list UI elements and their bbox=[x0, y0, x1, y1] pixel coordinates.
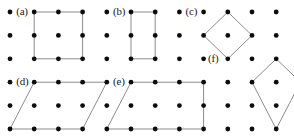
lattice-dot bbox=[274, 80, 279, 85]
lattice-dot bbox=[250, 10, 255, 15]
lattice-dot bbox=[274, 127, 279, 132]
lattice-dot bbox=[153, 103, 158, 108]
lattice-dot bbox=[225, 33, 230, 38]
lattice-dot bbox=[80, 33, 85, 38]
lattice-dot bbox=[201, 127, 206, 132]
lattice-dot bbox=[201, 80, 206, 85]
shape-label-b: (b) bbox=[113, 6, 125, 17]
lattice-dot bbox=[201, 10, 206, 15]
lattice-dot bbox=[32, 33, 37, 38]
lattice-dot bbox=[225, 103, 230, 108]
lattice-dot bbox=[32, 10, 37, 15]
lattice-dot bbox=[104, 103, 109, 108]
lattice-dot bbox=[32, 127, 37, 132]
lattice-dot bbox=[56, 56, 61, 61]
rectangle-shape-b bbox=[131, 12, 155, 59]
shape-label-c: (c) bbox=[186, 6, 198, 17]
lattice-dot bbox=[153, 10, 158, 15]
lattice-dot bbox=[104, 127, 109, 132]
shape-label-a: (a) bbox=[16, 6, 28, 17]
lattice-dot bbox=[225, 80, 230, 85]
lattice-dot bbox=[8, 127, 13, 132]
lattice-dot bbox=[153, 56, 158, 61]
lattice-dot bbox=[129, 80, 134, 85]
lattice-dot bbox=[225, 127, 230, 132]
lattice-dot bbox=[201, 103, 206, 108]
lattice-dot bbox=[153, 33, 158, 38]
shape-label-e: (e) bbox=[113, 76, 125, 87]
lattice-dot bbox=[250, 56, 255, 61]
dot-grid-layer bbox=[8, 10, 279, 132]
lattice-dot bbox=[274, 33, 279, 38]
lattice-dot bbox=[104, 10, 109, 15]
lattice-dot bbox=[274, 10, 279, 15]
lattice-dot bbox=[274, 56, 279, 61]
lattice-dot bbox=[177, 80, 182, 85]
lattice-dot bbox=[56, 80, 61, 85]
lattice-dot bbox=[80, 10, 85, 15]
lattice-dot bbox=[32, 80, 37, 85]
lattice-dot bbox=[177, 103, 182, 108]
lattice-dot bbox=[8, 33, 13, 38]
lattice-dot bbox=[32, 103, 37, 108]
lattice-dot bbox=[56, 103, 61, 108]
lattice-dot bbox=[177, 33, 182, 38]
polygon-layer bbox=[10, 12, 294, 129]
lattice-dot bbox=[225, 56, 230, 61]
lattice-dot bbox=[32, 56, 37, 61]
lattice-dot bbox=[153, 80, 158, 85]
lattice-dot bbox=[80, 80, 85, 85]
lattice-dot bbox=[250, 103, 255, 108]
lattice-dot bbox=[274, 103, 279, 108]
lattice-dot bbox=[80, 103, 85, 108]
lattice-dot bbox=[56, 127, 61, 132]
lattice-dot bbox=[104, 56, 109, 61]
lattice-dot bbox=[80, 127, 85, 132]
lattice-dot bbox=[129, 10, 134, 15]
lattice-dot bbox=[153, 127, 158, 132]
lattice-dot bbox=[8, 103, 13, 108]
lattice-dot bbox=[104, 80, 109, 85]
lattice-dot bbox=[129, 56, 134, 61]
dot-lattice-figure: (a)(b)(c)(d)(e)(f) bbox=[0, 0, 294, 138]
lattice-dot bbox=[129, 33, 134, 38]
lattice-dot bbox=[177, 127, 182, 132]
lattice-dot bbox=[8, 10, 13, 15]
lattice-dot bbox=[8, 56, 13, 61]
lattice-dot bbox=[129, 103, 134, 108]
lattice-dot bbox=[250, 80, 255, 85]
shape-label-d: (d) bbox=[16, 76, 28, 87]
lattice-dot bbox=[250, 127, 255, 132]
lattice-dot bbox=[201, 56, 206, 61]
lattice-dot bbox=[250, 33, 255, 38]
shape-label-f: (f) bbox=[208, 53, 218, 64]
lattice-dot bbox=[177, 56, 182, 61]
lattice-dot bbox=[104, 33, 109, 38]
lattice-dot bbox=[56, 33, 61, 38]
lattice-dot bbox=[80, 56, 85, 61]
lattice-dot bbox=[8, 80, 13, 85]
lattice-dot bbox=[129, 127, 134, 132]
lattice-dot bbox=[177, 10, 182, 15]
lattice-canvas bbox=[0, 0, 294, 138]
lattice-dot bbox=[201, 33, 206, 38]
kite-shape-f bbox=[252, 59, 294, 129]
lattice-dot bbox=[56, 10, 61, 15]
lattice-dot bbox=[225, 10, 230, 15]
